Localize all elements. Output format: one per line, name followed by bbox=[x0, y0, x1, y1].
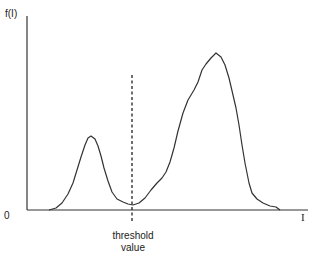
threshold-label-line2: value bbox=[108, 242, 158, 254]
histogram-curve bbox=[49, 53, 280, 210]
origin-label: 0 bbox=[4, 211, 10, 221]
threshold-label: threshold value bbox=[108, 230, 158, 254]
threshold-label-line1: threshold bbox=[108, 230, 158, 242]
x-axis-label: I bbox=[301, 212, 305, 223]
y-axis-label: f(I) bbox=[5, 9, 17, 19]
histogram-chart bbox=[0, 0, 322, 262]
